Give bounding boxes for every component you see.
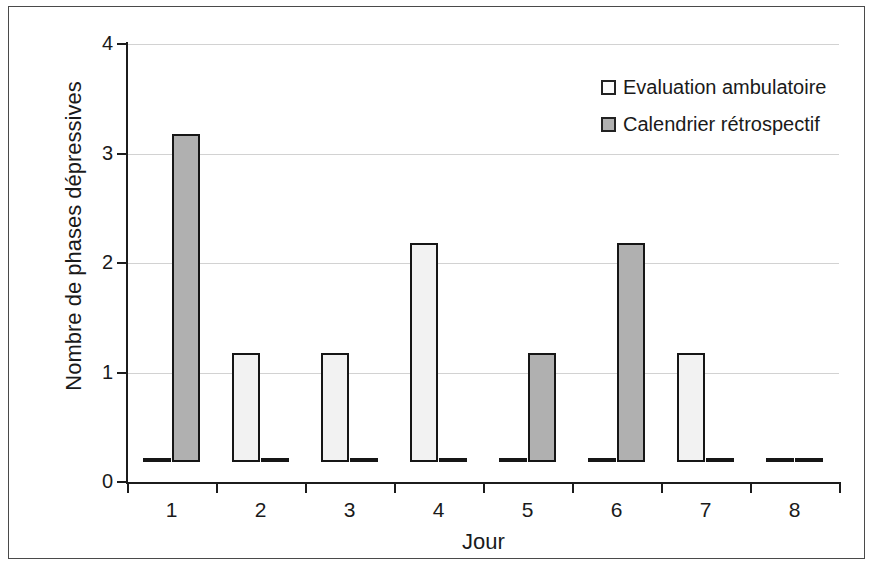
y-axis-tick-label: 0 — [85, 471, 113, 491]
x-axis-tick-label: 4 — [417, 499, 461, 520]
y-axis-tick-label: 3 — [85, 143, 113, 163]
x-axis-tick-label: 2 — [239, 499, 283, 520]
y-axis-tick-label: 4 — [85, 33, 113, 53]
legend-swatch-icon — [601, 117, 616, 132]
bar-calendrier-r-trospectif-day-4 — [439, 458, 467, 462]
y-axis-tick — [117, 43, 127, 45]
x-axis-tick — [483, 482, 485, 493]
y-axis-tick — [117, 262, 127, 264]
gridline — [127, 154, 839, 155]
x-axis-tick — [750, 482, 752, 493]
x-axis-tick — [839, 482, 841, 493]
bar-calendrier-r-trospectif-day-2 — [261, 458, 289, 462]
x-axis-tick-label: 6 — [595, 499, 639, 520]
y-axis-title-container: Nombre de phases dépressives — [61, 7, 62, 517]
x-axis-tick — [394, 482, 396, 493]
bar-calendrier-r-trospectif-day-7 — [706, 458, 734, 462]
x-axis-tick — [216, 482, 218, 493]
legend-label: Calendrier rétrospectif — [623, 114, 820, 134]
x-axis-title: Jour — [127, 531, 840, 553]
bar-evaluation-ambulatoire-day-3 — [321, 353, 349, 463]
y-axis-tick — [117, 481, 127, 483]
x-axis-tick-label: 7 — [684, 499, 728, 520]
bar-evaluation-ambulatoire-day-2 — [232, 353, 260, 463]
bar-calendrier-r-trospectif-day-1 — [172, 134, 200, 463]
bar-calendrier-r-trospectif-day-3 — [350, 458, 378, 462]
legend-swatch-icon — [601, 80, 616, 95]
gridline — [127, 263, 839, 264]
x-axis-tick — [661, 482, 663, 493]
x-axis-tick-label: 3 — [328, 499, 372, 520]
x-axis-tick-label: 5 — [506, 499, 550, 520]
gridline — [127, 44, 839, 45]
x-axis-tick-label: 1 — [150, 499, 194, 520]
bar-evaluation-ambulatoire-day-8 — [766, 458, 794, 462]
x-axis-tick — [127, 482, 129, 493]
x-axis-tick — [305, 482, 307, 493]
y-axis-title: Nombre de phases dépressives — [63, 1, 85, 471]
bar-evaluation-ambulatoire-day-4 — [410, 243, 438, 462]
y-axis-tick — [117, 153, 127, 155]
x-axis-tick-label: 8 — [773, 499, 817, 520]
bar-calendrier-r-trospectif-day-5 — [528, 353, 556, 463]
bar-evaluation-ambulatoire-day-1 — [143, 458, 171, 462]
y-axis-tick-label: 1 — [85, 362, 113, 382]
y-axis-tick — [117, 372, 127, 374]
bar-calendrier-r-trospectif-day-6 — [617, 243, 645, 462]
y-axis-tick-label: 2 — [85, 252, 113, 272]
legend-item-1: Calendrier rétrospectif — [601, 114, 826, 134]
bar-evaluation-ambulatoire-day-7 — [677, 353, 705, 463]
figure-border: 01234 12345678 Nombre de phases dépressi… — [8, 6, 865, 559]
bar-evaluation-ambulatoire-day-5 — [499, 458, 527, 462]
x-axis-tick — [572, 482, 574, 493]
bar-calendrier-r-trospectif-day-8 — [795, 458, 823, 462]
legend-label: Evaluation ambulatoire — [623, 77, 826, 97]
bar-evaluation-ambulatoire-day-6 — [588, 458, 616, 462]
legend-item-0: Evaluation ambulatoire — [601, 77, 826, 97]
chart-legend: Evaluation ambulatoireCalendrier rétrosp… — [601, 77, 826, 134]
